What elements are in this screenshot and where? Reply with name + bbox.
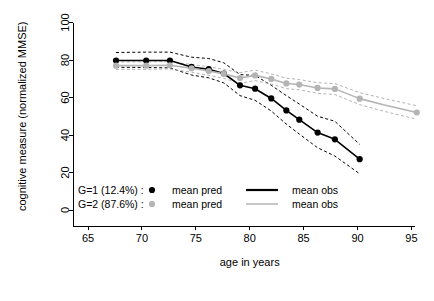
legend-mean-obs-label: mean obs — [292, 198, 338, 210]
chart-background — [0, 0, 434, 301]
data-point — [206, 68, 212, 74]
legend-mean-pred-marker — [149, 187, 155, 193]
data-point — [167, 62, 173, 68]
data-point — [221, 71, 227, 77]
x-axis-tick-label: 85 — [297, 232, 309, 244]
y-axis-tick-label: 0 — [59, 207, 71, 213]
data-point — [296, 117, 302, 123]
data-point — [143, 63, 149, 69]
data-point — [268, 76, 274, 82]
data-point — [332, 136, 338, 142]
x-axis-title: age in years — [220, 256, 280, 268]
x-axis-tick-label: 65 — [82, 232, 94, 244]
y-axis-tick-label: 100 — [59, 13, 71, 31]
legend-row-1: G=1 (12.4%) :mean predmean obs — [78, 184, 338, 196]
data-point — [252, 86, 258, 92]
x-axis-tick-label: 80 — [244, 232, 256, 244]
y-axis-tick-label: 80 — [59, 54, 71, 66]
x-axis-tick-label: 75 — [190, 232, 202, 244]
legend-mean-pred-marker — [149, 201, 155, 207]
legend-group-label: G=1 (12.4%) : — [78, 184, 144, 196]
legend-row-2: G=2 (87.6%) :mean predmean obs — [78, 198, 338, 210]
x-axis-tick-label: 70 — [136, 232, 148, 244]
legend-mean-pred-label: mean pred — [172, 184, 222, 196]
y-axis-tick-label: 40 — [59, 129, 71, 141]
chart-canvas: 02040608010065707580859095 age in yearsc… — [0, 0, 434, 301]
data-point — [113, 63, 119, 69]
legend-mean-obs-label: mean obs — [292, 184, 338, 196]
data-point — [283, 107, 289, 113]
y-axis-title: cognitive measure (normalized MMSE) — [16, 21, 28, 211]
legend-mean-pred-label: mean pred — [172, 198, 222, 210]
chart-figure: 02040608010065707580859095 age in yearsc… — [0, 0, 434, 301]
y-axis-tick-label: 60 — [59, 91, 71, 103]
x-axis-tick-label: 95 — [405, 232, 417, 244]
data-point — [296, 81, 302, 87]
data-point — [414, 109, 420, 115]
x-axis-tick-label: 90 — [351, 232, 363, 244]
data-point — [283, 80, 289, 86]
data-point — [315, 129, 321, 135]
data-point — [237, 75, 243, 81]
data-point — [332, 86, 338, 92]
data-point — [357, 156, 363, 162]
data-point — [188, 65, 194, 71]
y-axis-tick-label: 20 — [59, 166, 71, 178]
data-point — [237, 82, 243, 88]
legend-group-label: G=2 (87.6%) : — [78, 198, 144, 210]
data-point — [252, 72, 258, 78]
data-point — [357, 96, 363, 102]
data-point — [315, 85, 321, 91]
data-point — [268, 95, 274, 101]
